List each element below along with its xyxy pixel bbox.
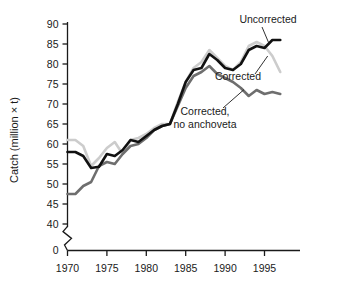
annotation-label-uncorrected: Uncorrected [239, 13, 296, 25]
y-axis-tick-label: 0 [53, 244, 59, 256]
y-axis-tick-label: 50 [47, 178, 59, 190]
y-axis-tick-label: 75 [47, 78, 59, 90]
annotation-label-corrected: Corrected [215, 70, 261, 82]
y-axis-title: Catch (million × t) [8, 97, 20, 183]
catch-line-chart: Catch (million × t) 04045505560657075808… [0, 0, 338, 288]
y-axis-tick-label: 60 [47, 138, 59, 150]
y-axis-tick-label: 80 [47, 58, 59, 70]
annotation-label-corrected-no-anchoveta-line1: Corrected, [180, 105, 229, 117]
x-axis-tick-label: 1975 [95, 262, 119, 274]
y-axis-tick-label: 65 [47, 118, 59, 130]
y-axis-tick-label: 70 [47, 98, 59, 110]
y-axis-title-text: Catch (million × t) [8, 97, 20, 183]
x-axis-tick-label: 1980 [135, 262, 159, 274]
y-axis-tick-label: 90 [47, 18, 59, 30]
y-axis-tick-label: 45 [47, 198, 59, 210]
x-axis-tick-label: 1970 [56, 262, 80, 274]
y-axis-tick-label: 55 [47, 158, 59, 170]
x-axis-tick-label: 1985 [174, 262, 198, 274]
annotation-label-corrected-no-anchoveta-line2: no anchoveta [173, 118, 236, 130]
y-axis-tick-label: 40 [47, 218, 59, 230]
x-axis-tick-label: 1995 [253, 262, 277, 274]
x-axis-tick-label: 1990 [213, 262, 237, 274]
chart-figure: Catch (million × t) 04045505560657075808… [0, 0, 338, 288]
y-axis-tick-label: 85 [47, 38, 59, 50]
